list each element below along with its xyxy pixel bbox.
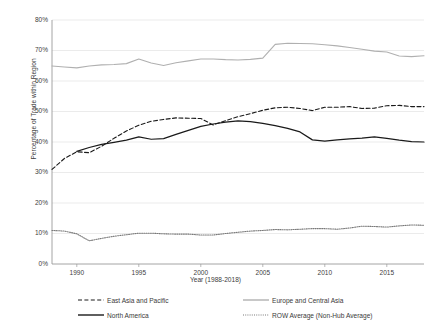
trade-within-region-line-chart: Percentage of Trade within Region 0%10%2…: [0, 0, 431, 331]
legend-item[interactable]: East Asia and Pacific: [78, 296, 169, 304]
series-line: [52, 225, 424, 241]
legend-line-swatch: [78, 296, 104, 304]
legend-label: East Asia and Pacific: [107, 297, 169, 304]
legend-label: Europe and Central Asia: [272, 297, 343, 304]
series-line: [52, 43, 424, 68]
legend-label: North America: [107, 312, 149, 319]
legend-item[interactable]: North America: [78, 311, 149, 319]
legend-line-swatch: [78, 311, 104, 319]
chart-legend: East Asia and PacificEurope and Central …: [0, 296, 431, 330]
legend-item[interactable]: ROW Average (Non-Hub Average): [243, 311, 373, 319]
legend-label: ROW Average (Non-Hub Average): [272, 312, 373, 319]
legend-item[interactable]: Europe and Central Asia: [243, 296, 343, 304]
legend-line-swatch: [243, 311, 269, 319]
series-line: [77, 121, 424, 151]
legend-line-swatch: [243, 296, 269, 304]
x-axis-title: Year (1988-2018): [0, 276, 431, 283]
